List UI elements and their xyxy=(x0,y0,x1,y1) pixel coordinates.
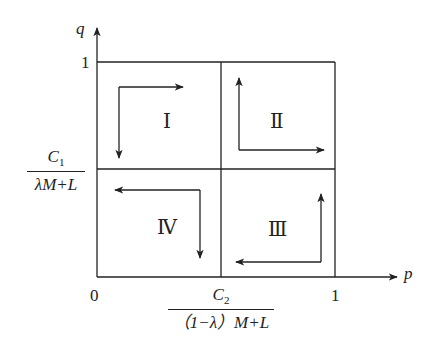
origin-label: 0 xyxy=(90,287,99,304)
p-threshold-denominator: （1−λ）M+L xyxy=(168,310,274,331)
x-axis-label: p xyxy=(404,265,413,282)
region-III-label: Ⅲ xyxy=(268,219,287,239)
region-I-arrows xyxy=(119,87,183,158)
region-I-label: Ⅰ xyxy=(163,111,171,131)
p-threshold-numerator: C2 xyxy=(168,286,274,309)
q-threshold-label: C1 λM+L xyxy=(27,148,85,193)
region-II-label: Ⅱ xyxy=(270,111,284,131)
x-max-label: 1 xyxy=(331,287,340,304)
y-axis-label: q xyxy=(76,20,85,37)
y-max-label: 1 xyxy=(81,54,90,71)
q-threshold-denominator: λM+L xyxy=(27,172,85,193)
q-threshold-numerator: C1 xyxy=(27,148,85,171)
p-threshold-label: C2 （1−λ）M+L xyxy=(168,286,274,331)
region-IV-label: Ⅳ xyxy=(157,217,177,237)
